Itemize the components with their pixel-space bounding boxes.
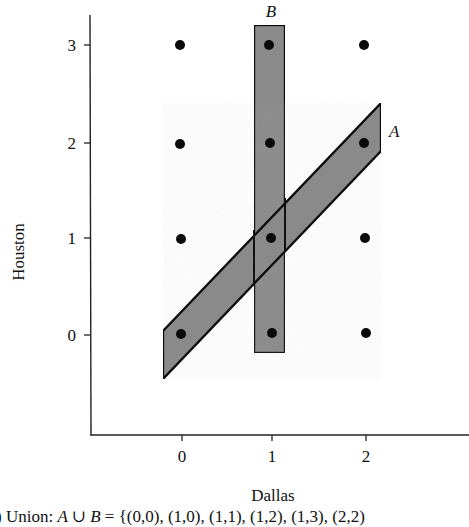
point-1-3 xyxy=(264,40,274,50)
union-diagram: 3 2 1 0 0 1 2 Houston Dallas B A xyxy=(0,0,469,527)
y-tick-label-2: 2 xyxy=(68,134,77,153)
point-1-0 xyxy=(267,328,277,338)
caption-set: {(0,0), (1,0), (1,1), (1,2), (1,3), (2,2… xyxy=(119,507,365,526)
point-2-1 xyxy=(360,233,370,243)
point-2-2 xyxy=(359,138,369,148)
figure-caption: ) Union: A ∪ B = {(0,0), (1,0), (1,1), (… xyxy=(0,506,365,527)
y-tick-label-3: 3 xyxy=(68,36,77,55)
caption-equals: = xyxy=(101,507,119,526)
x-tick-label-0: 0 xyxy=(178,447,187,466)
point-0-0 xyxy=(176,329,186,339)
x-axis-label: Dallas xyxy=(251,486,294,505)
y-tick-label-1: 1 xyxy=(68,229,77,248)
point-2-0 xyxy=(361,328,371,338)
x-tick-label-1: 1 xyxy=(268,447,277,466)
point-0-2 xyxy=(175,139,185,149)
caption-prefix: ) Union: xyxy=(0,507,57,526)
y-axis-line xyxy=(90,15,91,435)
set-b-label: B xyxy=(266,2,277,21)
y-tick-label-0: 0 xyxy=(68,326,77,345)
set-a-label: A xyxy=(388,122,400,141)
point-0-3 xyxy=(175,40,185,50)
set-b-region xyxy=(254,25,285,353)
point-1-2 xyxy=(265,138,275,148)
point-0-1 xyxy=(176,234,186,244)
point-2-3 xyxy=(359,40,369,50)
point-1-1 xyxy=(266,233,276,243)
y-axis-label: Houston xyxy=(9,223,28,281)
caption-expression: A ∪ B xyxy=(57,507,100,526)
x-tick-label-2: 2 xyxy=(362,447,371,466)
